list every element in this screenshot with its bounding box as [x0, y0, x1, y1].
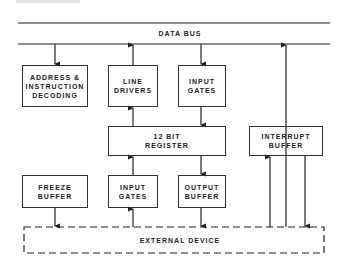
address-decoding-label: ADDRESS & INSTRUCTION DECODING: [26, 73, 85, 100]
freeze-line2: BUFFER: [38, 192, 72, 201]
interrupt-line2: BUFFER: [261, 141, 310, 150]
input-gates-bottom-line1: INPUT: [119, 183, 148, 192]
input-gates-top-label: INPUT GATES: [188, 77, 217, 95]
input-gates-top-line2: GATES: [188, 86, 217, 95]
register-line2: REGISTER: [145, 141, 189, 150]
freeze-line1: FREEZE: [38, 183, 72, 192]
interrupt-buffer-block: INTERRUPT BUFFER: [249, 126, 323, 156]
input-gates-bottom-label: INPUT GATES: [119, 183, 148, 201]
line-drivers-block: LINE DRIVERS: [108, 65, 158, 107]
interrupt-buffer-label: INTERRUPT BUFFER: [261, 132, 310, 150]
external-device-label: EXTERNAL DEVICE: [120, 236, 240, 245]
output-line2: BUFFER: [185, 192, 220, 201]
line-drivers-line1: LINE: [114, 77, 152, 86]
line-drivers-line2: DRIVERS: [114, 86, 152, 95]
input-gates-top-block: INPUT GATES: [178, 65, 226, 107]
output-line1: OUTPUT: [185, 183, 220, 192]
data-bus-label: DATA BUS: [140, 29, 220, 38]
register-block: 12 BIT REGISTER: [108, 126, 226, 156]
input-gates-bottom-line2: GATES: [119, 192, 148, 201]
register-label: 12 BIT REGISTER: [145, 132, 189, 150]
address-line3: DECODING: [26, 91, 85, 100]
freeze-buffer-label: FREEZE BUFFER: [38, 183, 72, 201]
output-buffer-block: OUTPUT BUFFER: [178, 175, 226, 208]
address-line1: ADDRESS &: [26, 73, 85, 82]
line-drivers-label: LINE DRIVERS: [114, 77, 152, 95]
freeze-buffer-block: FREEZE BUFFER: [22, 175, 88, 208]
input-gates-bottom-block: INPUT GATES: [108, 175, 158, 208]
address-line2: INSTRUCTION: [26, 82, 85, 91]
input-gates-top-line1: INPUT: [188, 77, 217, 86]
output-buffer-label: OUTPUT BUFFER: [185, 183, 220, 201]
interrupt-line1: INTERRUPT: [261, 132, 310, 141]
address-decoding-block: ADDRESS & INSTRUCTION DECODING: [22, 65, 88, 107]
register-line1: 12 BIT: [145, 132, 189, 141]
